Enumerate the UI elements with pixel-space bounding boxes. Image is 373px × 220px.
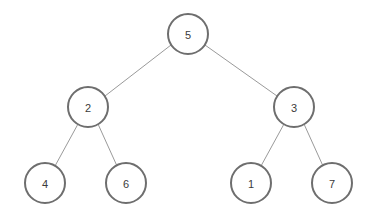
tree-edge [55,124,78,166]
tree-canvas: 5234617 [0,0,373,220]
binary-tree-diagram: 5234617 [0,0,373,220]
tree-node[interactable]: 1 [231,163,271,203]
tree-node[interactable]: 7 [312,163,352,203]
tree-edge [304,124,323,166]
tree-edge [205,45,277,96]
tree-node[interactable]: 3 [274,87,314,127]
tree-node[interactable]: 4 [25,163,65,203]
node-label: 2 [85,102,91,114]
node-label: 7 [329,178,335,190]
node-label: 3 [291,102,297,114]
node-label: 1 [248,178,254,190]
tree-node[interactable]: 2 [68,87,108,127]
tree-edge [98,124,117,166]
node-label: 4 [42,178,48,190]
tree-edge [105,45,171,96]
tree-edge [261,124,284,166]
node-label: 6 [123,178,129,190]
node-label: 5 [185,29,191,41]
tree-node[interactable]: 6 [106,163,146,203]
nodes-layer: 5234617 [25,14,352,203]
tree-node[interactable]: 5 [168,14,208,54]
